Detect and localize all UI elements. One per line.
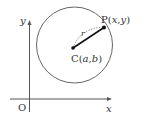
circle-diagram: y x O r C(a,b) P(x,y) <box>0 0 147 119</box>
x-axis-label: x <box>106 103 112 114</box>
center-label-prefix: C( <box>71 53 83 64</box>
point-p <box>102 26 106 30</box>
x-axis <box>10 97 112 101</box>
radius-label: r <box>81 29 86 38</box>
origin-label: O <box>18 102 26 113</box>
point-label-suffix: ) <box>126 14 130 25</box>
center-label-suffix: ) <box>98 53 102 64</box>
radius-segment <box>73 28 104 49</box>
center-point <box>71 46 75 50</box>
x-axis-arrow-icon <box>107 97 112 101</box>
point-label-prefix: P( <box>101 14 112 25</box>
point-p-label: P(x,y) <box>101 14 130 25</box>
y-axis-arrow-icon <box>28 20 32 25</box>
y-axis <box>28 20 32 112</box>
center-label: C(a,b) <box>71 53 102 64</box>
y-axis-label: y <box>19 15 26 26</box>
